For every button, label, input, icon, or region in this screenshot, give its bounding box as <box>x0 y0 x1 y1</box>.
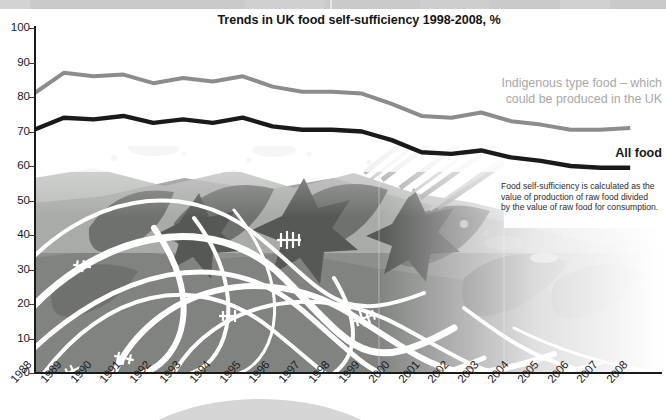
y-axis-tick <box>29 201 35 202</box>
x-axis-labels: 1988198919901991199219931994199519961997… <box>0 375 666 420</box>
indigenous-series-label-line2: could be produced in the UK <box>372 92 662 108</box>
y-axis-tick <box>29 63 35 64</box>
y-axis-tick <box>29 166 35 167</box>
y-axis-tick <box>29 373 35 374</box>
chart-page: 0102030405060708090100 19881989199019911… <box>0 0 666 420</box>
y-axis-tick-label: 50 <box>2 195 30 206</box>
band-segment <box>330 0 332 9</box>
y-axis-tick-label: 40 <box>2 229 30 240</box>
y-axis-tick-label: 10 <box>2 333 30 344</box>
y-axis-tick-label: 60 <box>2 160 30 171</box>
y-axis-tick <box>29 304 35 305</box>
y-axis-labels: 0102030405060708090100 <box>0 0 30 420</box>
band-segment <box>560 0 610 9</box>
y-axis-tick-label: 80 <box>2 91 30 102</box>
indigenous-series-label: Indigenous type food – which could be pr… <box>372 76 662 107</box>
y-axis-tick <box>29 28 35 29</box>
all-food-series-label: All food <box>500 146 662 160</box>
y-axis-tick <box>29 339 35 340</box>
chart-footnote: Food self-sufficiency is calculated as t… <box>501 181 659 213</box>
y-axis-tick-label: 70 <box>2 126 30 137</box>
top-decorative-band <box>0 0 666 9</box>
indigenous-series-label-line1: Indigenous type food – which <box>372 76 662 92</box>
chart-title-text: Trends in UK food self-sufficiency 1998-… <box>165 13 500 27</box>
band-segment <box>420 0 490 9</box>
y-axis-tick-label: 90 <box>2 57 30 68</box>
band-segment <box>245 0 325 9</box>
chart-title: Trends in UK food self-sufficiency 1998-… <box>0 13 666 27</box>
y-axis-tick <box>29 97 35 98</box>
y-axis-tick-label: 20 <box>2 298 30 309</box>
y-axis-tick <box>29 270 35 271</box>
y-axis-tick <box>29 132 35 133</box>
y-axis-tick <box>29 235 35 236</box>
y-axis-tick-label: 30 <box>2 264 30 275</box>
